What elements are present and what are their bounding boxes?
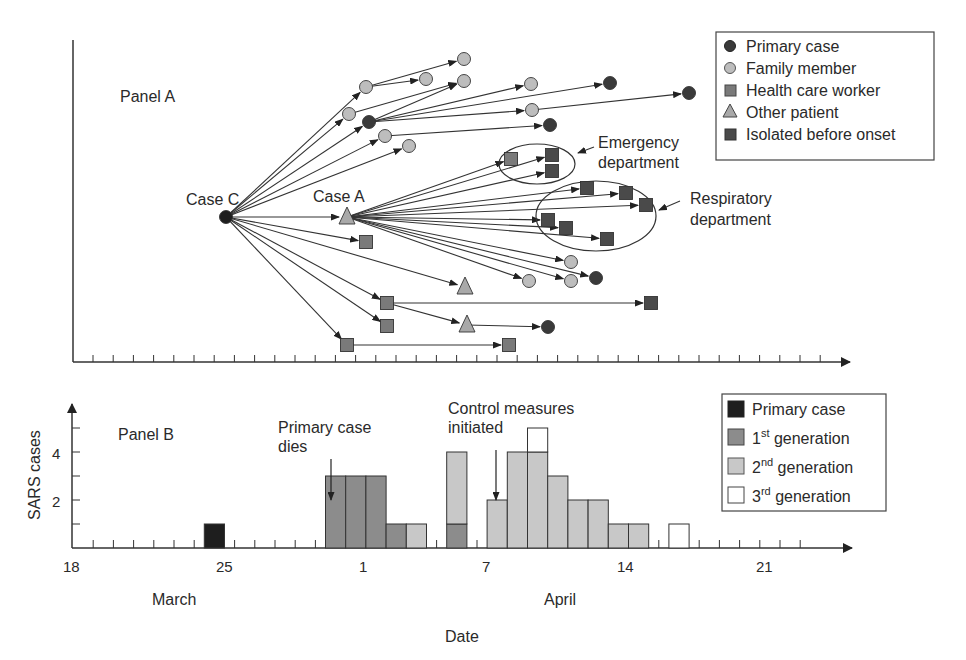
bar-segment	[548, 476, 568, 548]
case-node-circle-icon	[379, 130, 392, 143]
case-a-label: Case A	[313, 188, 365, 205]
panel-b-legend: Primary case 1st generation 2nd generati…	[722, 394, 886, 511]
legend-3rd-generation-swatch	[728, 487, 744, 503]
bar-segment	[204, 524, 224, 548]
case-node-square-icon	[560, 222, 573, 235]
transmission-edge	[532, 94, 681, 110]
case-node-square-icon	[581, 182, 594, 195]
bar-segment	[447, 524, 467, 548]
x-tick-label-14: 14	[617, 558, 634, 575]
respiratory-department-label-2: department	[690, 211, 771, 228]
bar-segment	[406, 524, 426, 548]
panel-a-x-ticks	[93, 355, 820, 362]
case-node-circle-icon	[220, 211, 233, 224]
emergency-department-label-2: department	[598, 154, 679, 171]
transmission-edge	[226, 217, 358, 241]
bar-segment	[326, 476, 346, 548]
bar-segment	[608, 524, 628, 548]
case-node-circle-icon	[542, 321, 555, 334]
bar-segment	[669, 524, 689, 548]
legend-a-label-0: Primary case	[746, 38, 839, 55]
y-tick-label-2: 2	[52, 493, 60, 510]
transmission-edge	[366, 61, 456, 87]
transmission-edges	[226, 61, 681, 345]
x-tick-label-18: 18	[63, 558, 80, 575]
bar-segment	[366, 476, 386, 548]
panel-b: 4 2 SARS cases Panel B Primary case dies…	[26, 394, 886, 645]
x-axis-label: Date	[445, 628, 479, 645]
legend-b-label-0: Primary case	[752, 401, 845, 418]
case-node-triangle-icon	[459, 315, 475, 332]
legend-a-label-2: Health care worker	[746, 82, 881, 99]
case-node-square-icon	[546, 149, 559, 162]
case-node-square-icon	[645, 297, 658, 310]
legend-a-label-4: Isolated before onset	[746, 126, 896, 143]
case-node-circle-icon	[525, 78, 538, 91]
month-label-march: March	[152, 591, 196, 608]
transmission-edge	[385, 126, 542, 136]
emergency-department-label-1: Emergency	[598, 134, 679, 151]
legend-a-label-3: Other patient	[746, 104, 839, 121]
bar-segment	[346, 476, 366, 548]
y-tick-label-4: 4	[52, 445, 60, 462]
transmission-edge	[347, 217, 521, 278]
case-node-circle-icon	[526, 104, 539, 117]
transmission-edge	[226, 217, 457, 285]
bar-segment	[386, 524, 406, 548]
bar-segment	[447, 452, 467, 524]
x-tick-label-25: 25	[216, 558, 233, 575]
legend-isolated-before-onset-icon	[725, 129, 736, 140]
case-node-square-icon	[381, 297, 394, 310]
case-node-square-icon	[640, 199, 653, 212]
bar-segment	[528, 452, 548, 548]
annotation-primary-case-dies-1: Primary case	[278, 419, 371, 436]
panel-a-title: Panel A	[120, 88, 175, 105]
month-label-april: April	[544, 591, 576, 608]
case-node-triangle-icon	[457, 277, 473, 294]
transmission-edge	[226, 217, 342, 339]
case-node-square-icon	[601, 233, 614, 246]
respiratory-department-label-1: Respiratory	[690, 190, 772, 207]
case-node-circle-icon	[343, 108, 356, 121]
x-tick-label-7: 7	[482, 558, 490, 575]
transmission-edge	[347, 194, 618, 217]
bar-segment	[629, 524, 649, 548]
y-axis-label: SARS cases	[26, 430, 43, 520]
case-node-circle-icon	[604, 77, 617, 90]
annotation-primary-case-dies-2: dies	[278, 438, 307, 455]
case-node-square-icon	[546, 165, 559, 178]
case-node-square-icon	[503, 339, 516, 352]
bar-segment	[568, 500, 588, 548]
x-tick-label-1: 1	[359, 558, 367, 575]
case-node-square-icon	[620, 187, 633, 200]
transmission-edge	[387, 303, 459, 323]
case-node-circle-icon	[590, 272, 603, 285]
case-node-square-icon	[341, 339, 354, 352]
panel-a-legend: Primary case Family member Health care w…	[716, 32, 934, 160]
case-node-square-icon	[381, 320, 394, 333]
case-node-circle-icon	[565, 256, 578, 269]
legend-family-member-icon	[725, 63, 736, 74]
transmission-edge	[347, 162, 503, 217]
case-node-circle-icon	[360, 81, 373, 94]
case-node-circle-icon	[403, 140, 416, 153]
legend-primary-case-icon	[725, 41, 736, 52]
case-c-label: Case C	[186, 191, 239, 208]
figure: Panel A Case C Case A Emergency departme…	[0, 0, 966, 660]
bar-segment	[507, 452, 527, 548]
bar-segment	[528, 428, 548, 452]
case-node-circle-icon	[363, 116, 376, 129]
transmission-nodes	[220, 53, 696, 352]
case-node-square-icon	[542, 214, 555, 227]
case-node-square-icon	[505, 153, 518, 166]
case-node-circle-icon	[523, 275, 536, 288]
panel-a: Panel A Case C Case A Emergency departme…	[73, 32, 934, 362]
case-node-circle-icon	[683, 87, 696, 100]
legend-primary-case-swatch	[728, 401, 744, 417]
panel-b-y-ticks	[72, 428, 80, 524]
transmission-edge	[226, 217, 380, 322]
case-node-circle-icon	[565, 275, 578, 288]
case-node-circle-icon	[544, 119, 557, 132]
bar-segment	[487, 500, 507, 548]
transmission-edge	[226, 217, 380, 299]
